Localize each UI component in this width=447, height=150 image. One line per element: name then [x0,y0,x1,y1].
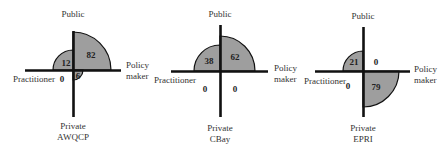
value-private-practitioner: 0 [346,81,351,91]
value-private-practitioner: 0 [203,84,208,94]
value-public-policy: 82 [87,50,97,60]
label-policy: Policy [274,63,298,73]
value-private-practitioner: 0 [60,74,65,84]
diagram-awqcp: 82 12 0 6 Public Practitioner Policy mak… [13,9,150,142]
label-public: Public [351,11,374,21]
label-practitioner: Practitioner [13,74,55,84]
label-practitioner: Practitioner [154,75,196,85]
value-public-practitioner: 21 [350,57,360,67]
label-maker: maker [414,75,437,85]
value-private-policy: 6 [76,71,81,81]
value-public-policy: 0 [374,57,379,67]
label-maker: maker [274,74,297,84]
value-public-practitioner: 38 [205,56,215,66]
value-public-policy: 62 [231,52,241,62]
diagram-title: AWQCP [57,132,89,142]
label-public: Public [61,9,84,19]
diagram-cbay: 62 38 0 0 Public Practitioner Policy mak… [154,9,298,144]
value-private-policy: 0 [233,84,238,94]
diagram-title: EPRI [353,134,373,144]
wedge-private-policy [363,71,399,107]
label-private: Private [350,123,376,133]
label-private: Private [60,121,86,131]
label-policy: Policy [414,64,438,74]
quadrant-diagrams: 82 12 0 6 Public Practitioner Policy mak… [0,0,447,150]
label-policy: Policy [126,60,150,70]
label-practitioner: Practitioner [304,76,346,86]
diagram-epri: 0 21 0 79 Public Practitioner Policy mak… [304,11,438,144]
value-public-practitioner: 12 [62,58,72,68]
label-private: Private [207,123,233,133]
label-maker: maker [126,71,149,81]
label-public: Public [208,9,231,19]
diagram-title: CBay [210,134,231,144]
value-private-policy: 79 [372,82,382,92]
